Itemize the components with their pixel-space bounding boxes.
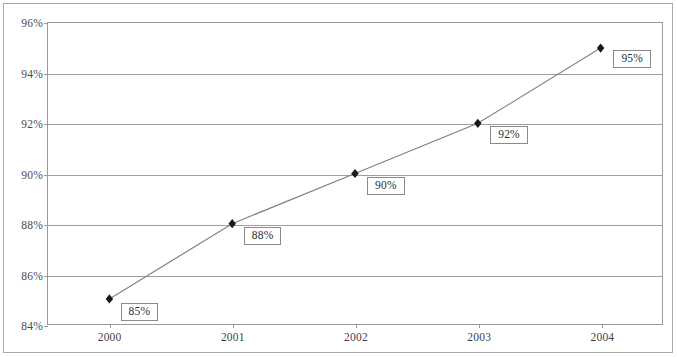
y-tick-mark <box>44 326 48 327</box>
y-tick-label: 90% <box>21 169 43 181</box>
data-point-label: 90% <box>367 177 405 195</box>
series-markers <box>106 44 605 304</box>
y-tick-label: 88% <box>21 219 43 231</box>
y-tick-label: 92% <box>21 118 43 130</box>
data-point-marker <box>106 294 114 303</box>
x-tick-mark <box>479 324 480 328</box>
chart-figure: 84%86%88%90%92%94%96% 200020012002200320… <box>3 3 673 353</box>
line-series <box>48 23 662 324</box>
x-tick-label: 2001 <box>221 331 245 343</box>
data-point-label: 95% <box>613 50 651 68</box>
x-tick-label: 2004 <box>590 331 614 343</box>
x-tick-mark <box>356 324 357 328</box>
data-point-marker <box>228 219 236 228</box>
x-tick-mark <box>233 324 234 328</box>
data-point-marker <box>597 44 605 53</box>
x-tick-mark <box>110 324 111 328</box>
data-point-label: 92% <box>490 126 528 144</box>
x-tick-label: 2003 <box>467 331 491 343</box>
x-tick-label: 2000 <box>98 331 122 343</box>
y-tick-label: 96% <box>21 17 43 29</box>
y-tick-label: 84% <box>21 320 43 332</box>
data-point-label: 88% <box>244 227 282 245</box>
y-tick-label: 94% <box>21 68 43 80</box>
data-point-label: 85% <box>121 303 159 321</box>
x-tick-label: 2002 <box>344 331 368 343</box>
data-point-marker <box>474 119 482 128</box>
y-tick-label: 86% <box>21 270 43 282</box>
x-tick-mark <box>602 324 603 328</box>
data-point-marker <box>351 169 359 178</box>
plot-area: 84%86%88%90%92%94%96% 200020012002200320… <box>47 22 663 325</box>
